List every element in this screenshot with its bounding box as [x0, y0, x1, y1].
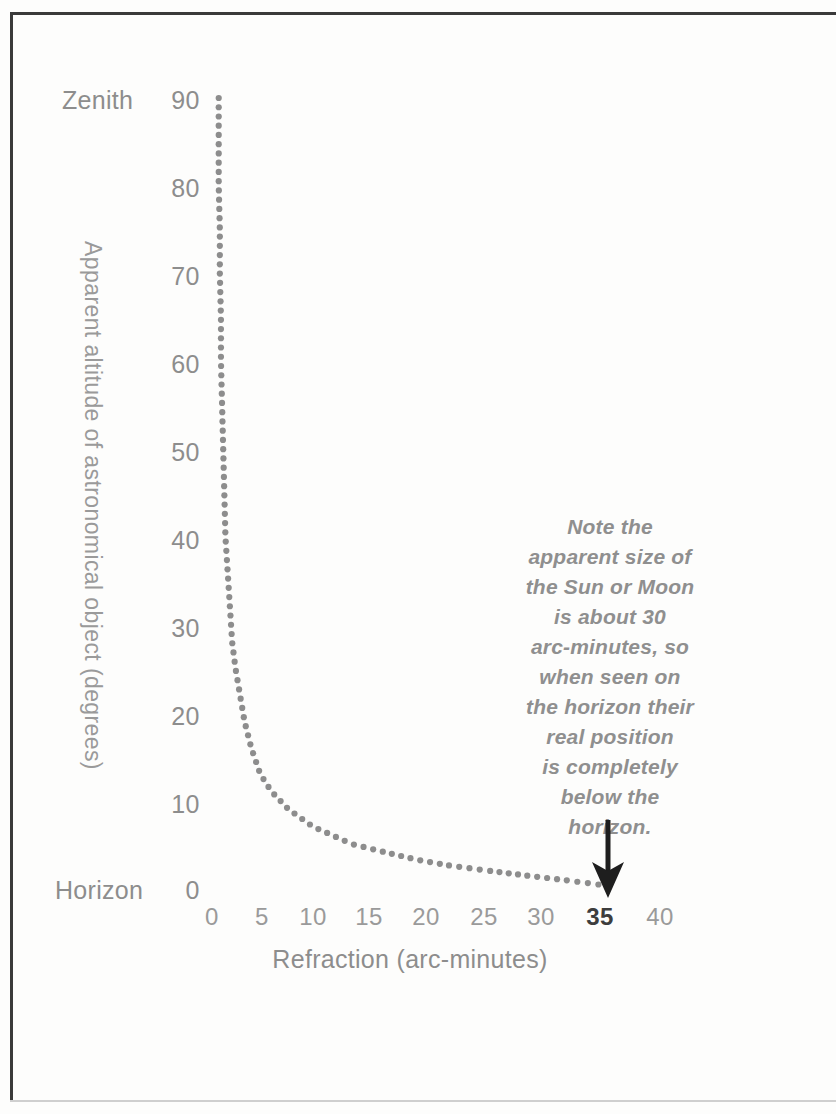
curve-point — [218, 317, 224, 323]
curve-point — [253, 759, 259, 765]
curve-point — [232, 659, 238, 665]
curve-point — [217, 243, 223, 249]
curve-point — [236, 686, 242, 692]
curve-point — [216, 113, 222, 119]
curve-point — [595, 881, 601, 887]
curve-point — [380, 849, 386, 855]
curve-point — [466, 865, 472, 871]
curve-point — [218, 381, 224, 387]
figure-page: Apparent altitude of astronomical object… — [0, 0, 836, 1114]
curve-point — [564, 877, 570, 883]
curve-point — [224, 566, 230, 572]
curve-point — [271, 791, 277, 797]
curve-point — [360, 844, 366, 850]
curve-point — [370, 846, 376, 852]
curve-point — [299, 816, 305, 822]
curve-point — [217, 252, 223, 258]
curve-point — [216, 187, 222, 193]
curve-point — [217, 224, 223, 230]
curve-point — [219, 418, 225, 424]
curve-point — [437, 861, 443, 867]
curve-point — [217, 261, 223, 267]
curve-point — [333, 834, 339, 840]
curve-point — [216, 215, 222, 221]
curve-point — [217, 289, 223, 295]
curve-point — [265, 784, 271, 790]
curve-point — [216, 150, 222, 156]
curve-point — [230, 649, 236, 655]
curve-point — [233, 668, 239, 674]
curve-point — [217, 298, 223, 304]
curve-point — [228, 622, 234, 628]
curve-point — [260, 776, 266, 782]
curve-point — [524, 873, 530, 879]
curve-point — [229, 631, 235, 637]
curve-point — [227, 603, 233, 609]
curve-point — [241, 714, 247, 720]
curve-point — [219, 409, 225, 415]
curve-point — [224, 557, 230, 563]
curve-point — [234, 677, 240, 683]
curve-point — [239, 705, 245, 711]
curve-point — [222, 511, 228, 517]
curve-point — [220, 428, 226, 434]
curve-point — [216, 160, 222, 166]
curve-point — [243, 723, 249, 729]
curve-point — [223, 538, 229, 544]
curve-point — [226, 594, 232, 600]
curve-point — [238, 696, 244, 702]
curve-point — [245, 732, 251, 738]
curve-point — [229, 640, 235, 646]
curve-point — [221, 492, 227, 498]
curve-point — [227, 612, 233, 618]
curve-point — [222, 529, 228, 535]
curve-point — [226, 585, 232, 591]
curve-point — [515, 871, 521, 877]
curve-point — [398, 853, 404, 859]
curve-point — [218, 372, 224, 378]
curve-point — [218, 307, 224, 313]
curve-point — [307, 821, 313, 827]
curve-point — [477, 866, 483, 872]
curve-point — [218, 326, 224, 332]
curve-point — [315, 826, 321, 832]
curve-point — [427, 859, 433, 865]
curve-point — [217, 234, 223, 240]
curve-point — [324, 830, 330, 836]
curve-point — [256, 768, 262, 774]
curve-point — [389, 851, 395, 857]
curve-point — [221, 483, 227, 489]
curve-point — [216, 206, 222, 212]
curve-point — [487, 868, 493, 874]
curve-point — [534, 874, 540, 880]
curve-point — [342, 838, 348, 844]
curve-point — [216, 197, 222, 203]
curve-point — [218, 363, 224, 369]
curve-point — [217, 280, 223, 286]
chart-vector-layer — [0, 0, 836, 1114]
curve-point — [250, 750, 256, 756]
curve-point — [216, 178, 222, 184]
curve-point — [222, 520, 228, 526]
curve-point — [351, 841, 357, 847]
curve-point — [218, 354, 224, 360]
curve-point — [217, 270, 223, 276]
curve-point — [216, 95, 222, 101]
refraction-curve — [216, 95, 602, 888]
curve-point — [574, 879, 580, 885]
curve-point — [506, 870, 512, 876]
curve-point — [221, 465, 227, 471]
curve-point — [223, 548, 229, 554]
curve-point — [216, 104, 222, 110]
curve-point — [220, 446, 226, 452]
curve-point — [496, 869, 502, 875]
curve-point — [220, 437, 226, 443]
curve-point — [407, 855, 413, 861]
curve-point — [225, 575, 231, 581]
curve-point — [417, 857, 423, 863]
curve-point — [221, 474, 227, 480]
curve-point — [219, 400, 225, 406]
curve-point — [585, 880, 591, 886]
curve-point — [247, 741, 253, 747]
curve-point — [278, 798, 284, 804]
